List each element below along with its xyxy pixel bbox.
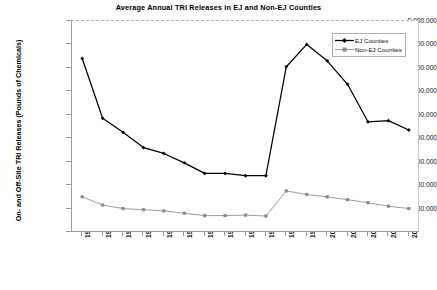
data-point: [386, 119, 390, 123]
legend-item: EJ Counties: [335, 36, 402, 45]
data-point: [264, 214, 267, 217]
x-tick-mark: [102, 232, 103, 236]
legend-item: Non-EJ Counties: [335, 45, 402, 54]
x-tick-mark: [306, 232, 307, 236]
data-point: [80, 57, 84, 61]
x-tick-mark: [224, 232, 225, 236]
data-point: [162, 209, 165, 212]
data-point: [244, 174, 248, 178]
chart-legend: EJ CountiesNon-EJ Counties: [332, 33, 406, 57]
data-point: [162, 152, 166, 156]
x-tick-mark: [142, 232, 143, 236]
series-line: [82, 191, 409, 216]
x-tick-mark: [183, 232, 184, 236]
x-tick-mark: [81, 232, 82, 236]
x-tick-mark: [163, 232, 164, 236]
data-point: [121, 207, 124, 210]
x-tick-mark: [245, 232, 246, 236]
data-point: [101, 203, 104, 206]
legend-label: Non-EJ Counties: [354, 46, 402, 53]
legend-marker-icon: [335, 36, 354, 45]
data-point: [387, 205, 390, 208]
data-point: [264, 174, 268, 178]
x-tick-mark: [408, 232, 409, 236]
legend-marker-icon: [335, 45, 354, 54]
series-1: [80, 43, 410, 178]
x-tick-mark: [347, 232, 348, 236]
y-axis-title: On- and Off-Site TRI Releases (Pounds of…: [14, 23, 23, 238]
data-point: [407, 128, 411, 132]
data-point: [244, 214, 247, 217]
data-point: [203, 214, 206, 217]
chart-container: Average Annual TRI Releases in EJ and No…: [0, 0, 437, 290]
data-point: [326, 195, 329, 198]
data-point: [81, 195, 84, 198]
series-line: [82, 44, 409, 175]
x-tick-mark: [285, 232, 286, 236]
data-point: [407, 207, 410, 210]
x-tick-mark: [367, 232, 368, 236]
x-tick-mark: [204, 232, 205, 236]
x-tick-mark: [326, 232, 327, 236]
data-point: [285, 189, 288, 192]
data-point: [346, 198, 349, 201]
data-point: [223, 171, 227, 175]
x-tick-mark: [387, 232, 388, 236]
data-point: [183, 212, 186, 215]
data-point: [223, 214, 226, 217]
x-tick-mark: [122, 232, 123, 236]
data-point: [142, 208, 145, 211]
data-point: [305, 193, 308, 196]
chart-title: Average Annual TRI Releases in EJ and No…: [0, 3, 437, 12]
x-tick-mark: [265, 232, 266, 236]
series-2: [81, 189, 411, 217]
legend-label: EJ Counties: [354, 37, 388, 44]
data-point: [366, 201, 369, 204]
